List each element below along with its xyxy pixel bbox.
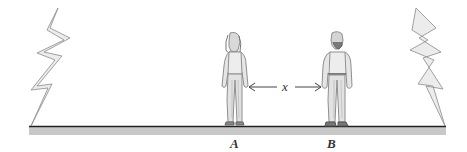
- diagram-scene: [0, 0, 467, 152]
- person-b-label: B: [327, 137, 336, 150]
- left-lightning-bolt-icon: [31, 8, 70, 126]
- person-b-figure: [322, 32, 352, 126]
- separation-label: x: [282, 80, 288, 93]
- right-lightning-bolt-icon: [410, 8, 445, 126]
- ground-band: [29, 127, 446, 135]
- person-a-figure: [222, 32, 248, 125]
- separation-arrow-right-icon: [295, 83, 321, 91]
- person-a-label: A: [230, 137, 239, 150]
- separation-arrow-left-icon: [249, 83, 277, 91]
